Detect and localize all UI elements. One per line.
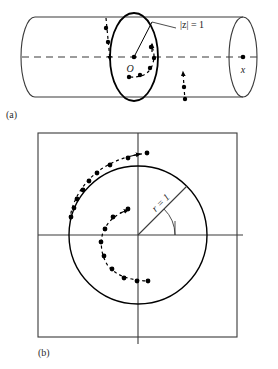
- inflow-dot: [104, 26, 108, 30]
- figure-container: |z| = 1 O x (a) r = 1: [0, 0, 278, 369]
- inflow-dot: [182, 85, 186, 89]
- spiral-dot: [95, 171, 100, 176]
- panel-b-group: r = 1: [38, 133, 243, 359]
- orbit-dot: [127, 75, 131, 79]
- orbit-dot: [152, 56, 156, 60]
- x-axis-label: x: [240, 64, 246, 75]
- figure-svg: |z| = 1 O x (a) r = 1: [0, 0, 278, 369]
- spiral-dot: [69, 215, 74, 220]
- angle-arc: [164, 209, 175, 235]
- spiral-dot: [72, 206, 77, 211]
- unit-circle-radius-line: [134, 22, 152, 57]
- outer-spiral: [69, 151, 150, 222]
- spiral-dot: [81, 188, 86, 193]
- inflow-dot: [183, 97, 187, 101]
- spiral-dot: [111, 215, 116, 220]
- origin-label: O: [126, 63, 133, 74]
- orbit-dot: [138, 73, 142, 77]
- origin-dot: [132, 55, 137, 60]
- spiral-dot: [126, 156, 131, 161]
- inflow-dot: [106, 40, 110, 44]
- spiral-dot: [126, 207, 131, 212]
- spiral-dot: [102, 254, 107, 259]
- spiral-dot: [103, 227, 108, 232]
- unit-circle-label-leader: [152, 22, 176, 28]
- orbit-dot: [149, 45, 153, 49]
- spiral-dot: [110, 267, 115, 272]
- unit-circle-label: |z| = 1: [180, 19, 204, 30]
- spiral-dot: [99, 240, 104, 245]
- spiral-dot: [145, 151, 150, 156]
- inner-spiral: [99, 207, 151, 284]
- spiral-dot: [135, 279, 140, 284]
- spiral-dot: [108, 163, 113, 168]
- inner-spiral-path: [101, 210, 148, 281]
- panel-b-label: (b): [38, 347, 50, 359]
- panel-a-group: |z| = 1 O x (a): [6, 13, 258, 121]
- spiral-dot: [122, 276, 127, 281]
- spiral-dot: [75, 197, 80, 202]
- panel-a-label: (a): [6, 109, 17, 121]
- spiral-dot: [146, 279, 151, 284]
- x-axis-point-dot: [241, 55, 246, 60]
- spiral-dot: [87, 179, 92, 184]
- orbit-dot: [148, 66, 152, 70]
- radius-label: r = 1: [149, 191, 171, 213]
